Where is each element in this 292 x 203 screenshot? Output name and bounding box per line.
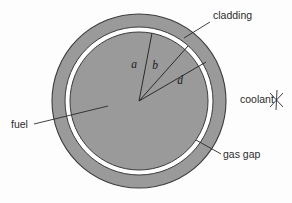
radius-label-b: b — [152, 59, 158, 71]
fuel-label: fuel — [11, 118, 28, 130]
radius-label-d: d — [177, 74, 183, 86]
fuel-rod-cross-section-diagram: a b d cladding gas gap fuel coolant — [0, 0, 292, 203]
radius-label-a: a — [131, 58, 137, 70]
gas-gap-label: gas gap — [223, 148, 261, 160]
cladding-label: cladding — [213, 9, 252, 21]
diagram-canvas: a b d cladding gas gap fuel coolant — [0, 0, 292, 203]
coolant-label: coolant — [240, 93, 274, 105]
